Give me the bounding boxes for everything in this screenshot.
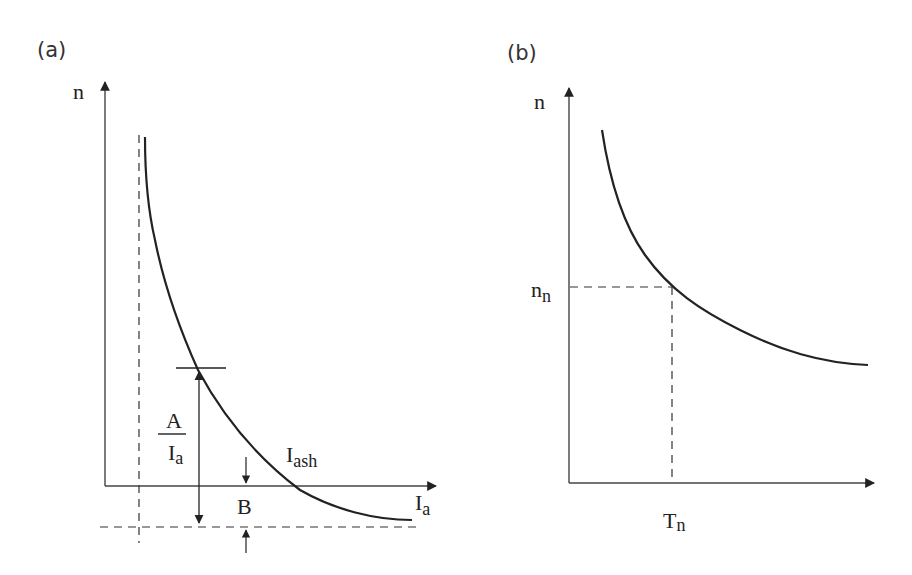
diagram-canvas: (a) n A Ia B Iash Ia (b) n	[0, 0, 912, 575]
panel-a-label: (a)	[37, 38, 66, 62]
rated-speed-label: nn	[531, 277, 551, 306]
panel-b-label: (b)	[507, 41, 537, 65]
offset-label-b: B	[237, 494, 252, 519]
speed-torque-curve	[602, 130, 868, 365]
x-axis-label-a: Ia	[415, 490, 430, 519]
y-axis-label-b: n	[534, 89, 545, 114]
panel-a: (a) n A Ia B Iash Ia	[37, 38, 436, 553]
rated-torque-label: Tn	[663, 508, 685, 535]
fraction-denominator: Ia	[168, 440, 183, 468]
curve-label-iash: Iash	[286, 442, 317, 471]
panel-b: (b) n nn Tn	[507, 41, 874, 535]
speed-current-curve	[145, 137, 412, 520]
y-axis-label-a: n	[73, 79, 84, 104]
fraction-numerator: A	[166, 408, 182, 433]
